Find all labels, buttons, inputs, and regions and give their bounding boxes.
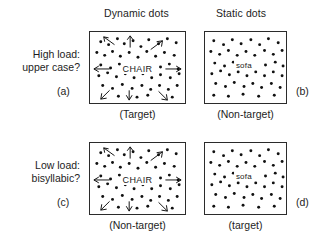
stimulus-panel-c: CHAIR	[89, 142, 186, 215]
panel-c-caption: (Non-target)	[89, 219, 186, 231]
stimulus-panel-a: CHAIR	[89, 31, 186, 104]
stimulus-panel-b: sofa	[204, 31, 287, 104]
row-label-high-load-line1: High load:	[2, 48, 80, 61]
row-label-high-load-line2: upper case?	[2, 61, 80, 74]
panel-b-word: sofa	[234, 61, 254, 70]
column-header-dynamic-dots: Dynamic dots	[104, 7, 169, 19]
panel-letter-c: (c)	[57, 196, 69, 208]
stimulus-figure: Dynamic dots Static dots High load: uppe…	[0, 0, 328, 247]
panel-d-word: sofa	[234, 172, 254, 181]
panel-d-caption: (target)	[204, 219, 287, 231]
stimulus-panel-d: sofa	[204, 142, 287, 215]
row-label-low-load: Low load: bisyllabic?	[2, 159, 80, 185]
row-label-high-load: High load: upper case?	[2, 48, 80, 74]
panel-a-word: CHAIR	[120, 64, 154, 74]
row-label-low-load-line1: Low load:	[2, 159, 80, 172]
column-header-static-dots: Static dots	[216, 7, 266, 19]
panel-letter-d: (d)	[296, 196, 309, 208]
panel-a-caption: (Target)	[89, 108, 186, 120]
row-label-low-load-line2: bisyllabic?	[2, 172, 80, 185]
panel-letter-b: (b)	[296, 85, 309, 97]
panel-b-caption: (Non-target)	[204, 108, 287, 120]
panel-letter-a: (a)	[57, 85, 70, 97]
panel-c-word: CHAIR	[120, 175, 154, 185]
